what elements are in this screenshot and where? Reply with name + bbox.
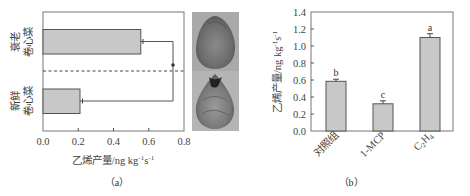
figure: 0.0 0.2 0.4 0.6 0.8 乙烯产量/ng kg-1s-1 衰老 卷… (0, 0, 470, 196)
panel-a-x-axis-label: 乙烯产量/ng kg-1s-1 (72, 154, 155, 166)
panel-b: 0.0 0.2 0.4 0.6 0.8 1.0 1.2 1.4 乙烯产量/ng … (271, 7, 453, 189)
significance-letter-control: b (334, 67, 339, 78)
photo-senescent-cabbage (192, 12, 239, 71)
x-tick-label: 0.2 (72, 136, 85, 147)
bar-ethylene (420, 38, 440, 132)
svg-text:乙烯产量/ng kg-1s-1: 乙烯产量/ng kg-1s-1 (271, 30, 283, 113)
x-tick-label: 0.6 (142, 136, 155, 147)
y-tick-label: 0.2 (293, 109, 306, 120)
y-tick-label: 0.6 (293, 75, 306, 86)
svg-text:卷心菜: 卷心菜 (22, 85, 34, 116)
x-tick-label: 0.0 (36, 136, 49, 147)
y-tick-label: 1.0 (293, 41, 306, 52)
x-category-label-control: 对照组 (311, 128, 341, 158)
panel-b-caption: （b） (339, 177, 364, 188)
svg-text:新鲜: 新鲜 (9, 90, 21, 111)
category-label-fresh: 新鲜 (9, 90, 21, 111)
y-tick-label: 1.2 (293, 24, 306, 35)
x-tick-label: 0.8 (177, 136, 190, 147)
svg-text:衰老: 衰老 (9, 32, 21, 52)
panel-b-y-axis-label: 乙烯产量/ng kg-1s-1 (271, 30, 283, 113)
significance-letter-1mcp: c (381, 89, 386, 100)
category-label-fresh-line2: 卷心菜 (22, 85, 34, 116)
svg-text:对照组: 对照组 (311, 128, 341, 158)
category-label-senescent: 衰老 (9, 32, 21, 52)
panel-a: 0.0 0.2 0.4 0.6 0.8 乙烯产量/ng kg-1s-1 衰老 卷… (9, 12, 239, 188)
bar-1mcp (373, 104, 393, 131)
bar-senescent-cabbage (43, 30, 141, 55)
y-tick-label: 1.4 (293, 7, 307, 18)
significance-asterisk (171, 63, 175, 67)
svg-text:1-MCP: 1-MCP (358, 130, 388, 160)
y-tick-label: 0.8 (293, 58, 306, 69)
photo-fresh-cabbage (192, 71, 239, 131)
y-tick-label: 0.4 (293, 92, 307, 103)
svg-text:C2H4: C2H4 (411, 129, 436, 154)
significance-letter-ethylene: a (428, 22, 433, 33)
x-category-label-1mcp: 1-MCP (358, 130, 388, 160)
x-tick-label: 0.4 (107, 136, 121, 147)
bar-control (326, 81, 346, 131)
panel-a-caption: （a） (105, 177, 129, 188)
x-category-label-ethylene: C2H4 (411, 129, 436, 154)
bar-fresh-cabbage (43, 89, 80, 114)
svg-text:卷心菜: 卷心菜 (22, 26, 34, 57)
y-tick-label: 0.0 (293, 126, 306, 137)
category-label-senescent-line2: 卷心菜 (22, 26, 34, 57)
